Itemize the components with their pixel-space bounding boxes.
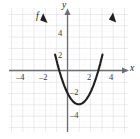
y-tick-minus-2: –2 <box>70 88 79 97</box>
y-tick-2: 2 <box>58 51 62 60</box>
x-tick-2: 2 <box>87 73 91 82</box>
x-tick-4: 4 <box>109 73 113 82</box>
x-tick-minus-2: –2 <box>39 73 48 82</box>
y-axis-label: y <box>62 1 66 11</box>
y-tick-4: 4 <box>58 29 62 38</box>
y-tick-minus-4: –4 <box>70 111 79 120</box>
curve-label-f: f <box>36 12 39 22</box>
x-tick-minus-4: –4 <box>16 73 25 82</box>
graph-figure: f y x –4 –2 2 4 4 2 –2 –4 <box>0 0 140 139</box>
x-axis-label: x <box>130 64 134 74</box>
